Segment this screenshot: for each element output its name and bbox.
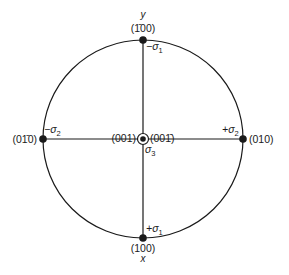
diagram-canvas: y x (1̄00) (100) (01̄0) (010) (001) (001… xyxy=(0,0,289,275)
pole-top-index: (1̄00) xyxy=(131,22,156,34)
stress-top-label: −σ1 xyxy=(146,40,163,55)
x-axis-label: x xyxy=(140,253,147,264)
pole-left-dot xyxy=(39,135,47,143)
pole-center-dot xyxy=(140,136,146,142)
stress-right-label: +σ2 xyxy=(222,123,239,138)
pole-center-left-index: (001) xyxy=(111,132,136,144)
y-axis-label: y xyxy=(140,9,147,20)
pole-left-index: (01̄0) xyxy=(12,133,37,145)
pole-right-dot xyxy=(239,135,247,143)
pole-right-index: (010) xyxy=(249,133,274,145)
stress-bottom-label: +σ1 xyxy=(146,222,163,237)
pole-center-right-index: (001̄) xyxy=(150,132,175,144)
stereographic-diagram: y x (1̄00) (100) (01̄0) (010) (001) (001… xyxy=(0,0,289,275)
pole-bottom-dot xyxy=(139,234,147,242)
pole-bottom-index: (100) xyxy=(131,242,156,254)
stress-center-label: σ3 xyxy=(145,143,156,158)
stress-left-label: −σ2 xyxy=(44,123,61,138)
